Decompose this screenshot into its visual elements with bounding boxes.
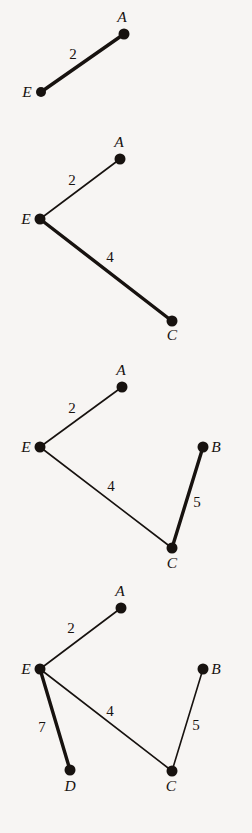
edge-weight-E-A: 2 bbox=[68, 172, 76, 188]
node-label-E: E bbox=[20, 210, 31, 227]
edge-weight-C-B: 5 bbox=[193, 494, 201, 510]
graph-figure-stack: 2EA24EAC245EACB2745EACBD bbox=[0, 0, 252, 833]
node-label-B: B bbox=[211, 660, 221, 677]
graph-node-A bbox=[117, 382, 128, 393]
node-label-A: A bbox=[114, 582, 125, 599]
graph-panel-2: 24EAC bbox=[0, 120, 252, 360]
edge-E-A bbox=[40, 608, 121, 669]
graph-canvas: 245EACB bbox=[0, 360, 252, 575]
graph-node-E bbox=[35, 442, 46, 453]
graph-canvas: 24EAC bbox=[0, 120, 252, 360]
node-label-E: E bbox=[20, 438, 31, 455]
graph-node-E bbox=[35, 664, 46, 675]
node-label-D: D bbox=[63, 777, 75, 794]
graph-node-E bbox=[36, 87, 46, 97]
edge-E-C bbox=[40, 669, 172, 771]
node-label-C: C bbox=[167, 326, 178, 343]
graph-node-C bbox=[167, 766, 178, 777]
edge-weight-E-C: 4 bbox=[106, 249, 114, 265]
edge-weight-E-D: 7 bbox=[38, 719, 46, 735]
graph-canvas: 2745EACBD bbox=[0, 575, 252, 833]
edge-weight-E-A: 2 bbox=[68, 400, 76, 416]
edge-weight-E-A: 2 bbox=[67, 620, 75, 636]
node-label-A: A bbox=[113, 133, 124, 150]
graph-node-A bbox=[116, 603, 127, 614]
graph-node-E bbox=[35, 214, 46, 225]
graph-node-A bbox=[115, 154, 126, 165]
edge-E-C bbox=[40, 447, 172, 548]
edge-E-A bbox=[41, 34, 124, 92]
edge-weight-E-C: 4 bbox=[106, 703, 114, 719]
edge-E-C bbox=[40, 219, 172, 321]
edge-weight-E-A: 2 bbox=[69, 46, 77, 62]
graph-panel-3: 245EACB bbox=[0, 360, 252, 575]
edge-E-A bbox=[40, 159, 120, 219]
graph-node-A bbox=[119, 29, 130, 40]
graph-node-C bbox=[167, 543, 178, 554]
node-label-C: C bbox=[167, 554, 178, 571]
node-label-A: A bbox=[116, 8, 127, 25]
edge-E-A bbox=[40, 387, 122, 447]
graph-panel-1: 2EA bbox=[0, 0, 252, 120]
node-label-E: E bbox=[20, 660, 31, 677]
graph-node-D bbox=[65, 765, 76, 776]
edge-weight-C-B: 5 bbox=[192, 717, 200, 733]
node-label-A: A bbox=[115, 361, 126, 378]
graph-canvas: 2EA bbox=[0, 0, 252, 120]
node-label-C: C bbox=[166, 777, 177, 794]
graph-panel-4: 2745EACBD bbox=[0, 575, 252, 833]
edge-weight-E-C: 4 bbox=[107, 478, 115, 494]
graph-node-C bbox=[167, 316, 178, 327]
node-label-B: B bbox=[211, 438, 221, 455]
node-label-E: E bbox=[21, 83, 32, 100]
graph-node-B bbox=[198, 442, 209, 453]
graph-node-B bbox=[198, 664, 209, 675]
